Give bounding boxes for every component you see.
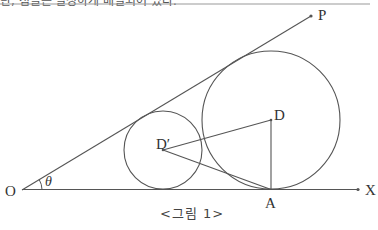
segment-dprime-d xyxy=(163,120,271,150)
label-d: D xyxy=(274,108,285,123)
label-theta: θ xyxy=(45,174,52,189)
figure-container: 단, 점들은 일정하게 배열되어 있다. O θ P X A D D′ <그림 … xyxy=(0,0,378,230)
figure-caption: <그림 1> xyxy=(160,207,224,221)
label-x: X xyxy=(365,183,376,198)
segment-dprime-a xyxy=(163,150,271,190)
point-p-dot xyxy=(309,14,312,17)
ray-op xyxy=(22,16,311,190)
label-o: O xyxy=(5,184,16,199)
point-x-dot xyxy=(356,188,359,191)
label-p: P xyxy=(318,8,326,23)
point-d-dot xyxy=(270,119,273,122)
geometry-diagram xyxy=(0,0,378,230)
angle-arc xyxy=(39,180,42,190)
label-d-prime: D′ xyxy=(156,137,170,152)
label-a: A xyxy=(265,196,276,211)
